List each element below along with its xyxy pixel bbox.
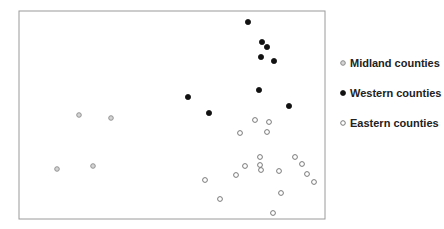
data-point <box>277 169 282 174</box>
data-point <box>258 163 263 168</box>
data-point <box>264 44 269 49</box>
legend-item-midland: Midland counties <box>341 57 440 69</box>
data-point <box>256 87 261 92</box>
data-point <box>234 173 239 178</box>
data-point <box>253 118 258 123</box>
data-point <box>259 39 264 44</box>
legend-marker-western-icon <box>341 91 346 96</box>
data-point <box>312 180 317 185</box>
plot-frame <box>19 11 325 219</box>
data-point <box>258 155 263 160</box>
data-point <box>286 103 291 108</box>
legend: Midland counties Western counties Easter… <box>341 57 442 129</box>
legend-label-eastern: Eastern counties <box>350 117 439 129</box>
data-point <box>300 162 305 167</box>
data-point <box>271 211 276 216</box>
data-point <box>238 131 243 136</box>
data-point <box>77 113 82 118</box>
legend-label-midland: Midland counties <box>350 57 440 69</box>
data-point <box>185 94 190 99</box>
legend-marker-midland-icon <box>341 61 346 66</box>
data-point <box>55 167 60 172</box>
data-point <box>279 191 284 196</box>
legend-item-western: Western counties <box>341 87 442 99</box>
data-point <box>203 178 208 183</box>
data-point <box>206 110 211 115</box>
data-point <box>271 58 276 63</box>
data-point <box>109 116 114 121</box>
data-point <box>245 19 250 24</box>
data-point <box>243 164 248 169</box>
legend-item-eastern: Eastern counties <box>341 117 439 129</box>
data-point <box>91 164 96 169</box>
data-point <box>293 155 298 160</box>
legend-marker-eastern-icon <box>341 121 346 126</box>
data-point <box>267 120 272 125</box>
data-point <box>218 197 223 202</box>
scatter-chart: Midland counties Western counties Easter… <box>0 0 444 229</box>
data-point <box>259 168 264 173</box>
data-point <box>265 130 270 135</box>
data-point <box>258 54 263 59</box>
legend-label-western: Western counties <box>350 87 442 99</box>
data-point <box>305 172 310 177</box>
